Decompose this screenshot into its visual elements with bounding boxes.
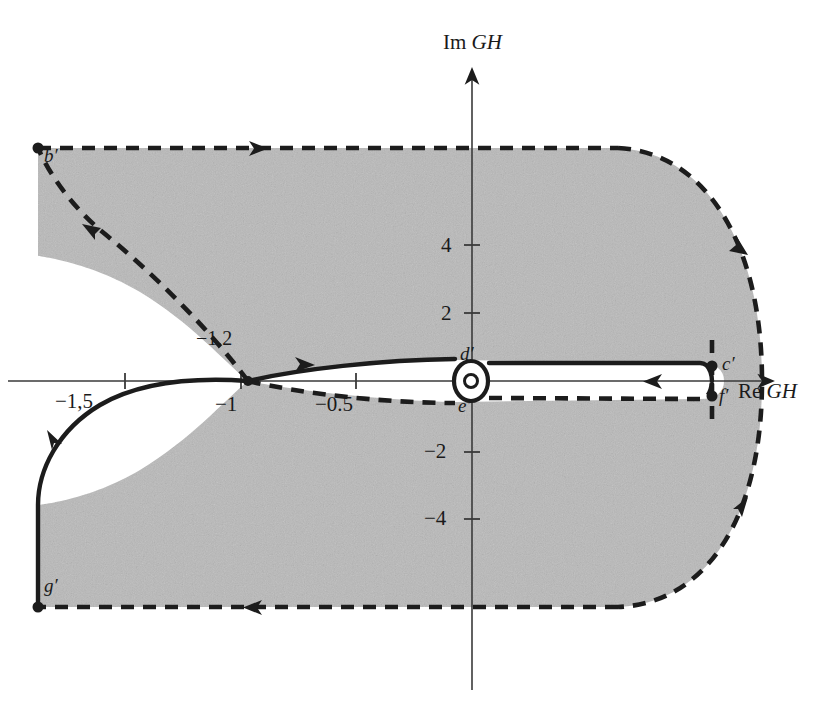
point-label-c-prime: c′ [722, 354, 735, 373]
ytick-label-2: 2 [441, 303, 452, 324]
y-axis-label-italic: GH [472, 30, 502, 54]
point-label-e-prime: e′ [458, 396, 471, 415]
x-axis-label: Re GH [738, 381, 797, 402]
ytick-label--4: −4 [424, 508, 446, 529]
nyquist-plot-svg [0, 0, 829, 728]
x-axis-label-italic: GH [767, 379, 797, 403]
dot-b-prime [33, 143, 44, 154]
ytick-label--2: −2 [424, 441, 446, 462]
y-axis-label: Im GH [443, 32, 502, 53]
xtick-label--0.5: −0.5 [315, 394, 353, 415]
point-label-g-prime: g′ [44, 576, 58, 595]
figure-canvas: Im GH Re GH −1,5 −1 −0.5 4 2 −2 −4 −1,2 … [0, 0, 829, 728]
point-label-d-prime: d′ [460, 344, 474, 363]
point-label-b-prime: b′ [44, 146, 58, 165]
xtick-label--1.5: −1,5 [55, 391, 93, 412]
ytick-label-4: 4 [441, 235, 452, 256]
y-axis-label-roman: Im [443, 30, 466, 54]
dot-f-prime [707, 391, 718, 402]
origin-loop-inner [465, 375, 478, 388]
crossing-annotation: −1,2 [196, 328, 232, 348]
x-axis-label-roman: Re [738, 379, 761, 403]
dot-c-prime [707, 361, 718, 372]
xtick-label--1: −1 [215, 394, 237, 415]
point-label-f-prime: f′ [719, 386, 728, 405]
dot-crossing [243, 376, 253, 386]
dot-g-prime [33, 602, 44, 613]
